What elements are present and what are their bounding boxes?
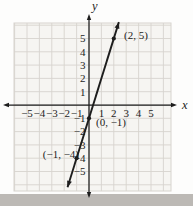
point-label: (2, 5) — [124, 29, 148, 42]
y-tick-label: 1 — [80, 86, 86, 98]
y-axis-label: y — [90, 0, 98, 13]
x-tick-label: −5 — [21, 107, 33, 119]
y-tick-label: 3 — [80, 59, 86, 71]
page-edge-band — [0, 194, 193, 206]
data-point — [87, 116, 91, 120]
figure: −5−4−3−2−11234554321−1−2−3−4−5xy(2, 5)(0… — [0, 0, 193, 206]
x-tick-label: −4 — [34, 107, 46, 119]
y-tick-label: −1 — [74, 112, 86, 124]
x-tick-label: 4 — [136, 107, 142, 119]
point-label: (0, −1) — [96, 116, 126, 129]
x-tick-label: −3 — [46, 107, 58, 119]
x-tick-label: −2 — [58, 107, 70, 119]
coordinate-plane-svg: −5−4−3−2−11234554321−1−2−3−4−5xy(2, 5)(0… — [0, 0, 193, 206]
y-tick-label: −5 — [74, 165, 86, 177]
y-tick-label: 4 — [80, 46, 86, 58]
x-axis-label: x — [181, 98, 188, 112]
point-label: (−1, −4) — [43, 148, 80, 161]
y-tick-label: 2 — [80, 72, 86, 84]
x-tick-label: 5 — [148, 107, 154, 119]
y-tick-label: 5 — [80, 32, 86, 44]
data-point — [112, 36, 116, 40]
